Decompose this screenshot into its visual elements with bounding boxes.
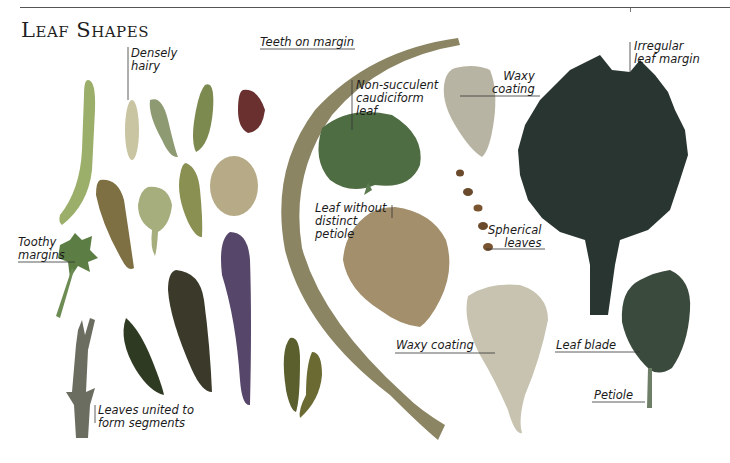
- waxy-coating-leaf-top: [444, 66, 496, 157]
- spherical-leaf: [478, 222, 488, 230]
- caudiciform-leaf: [318, 112, 420, 189]
- label-waxy-coating-bottom: Waxy coating: [396, 339, 474, 352]
- leaf-blade: [622, 270, 690, 373]
- petiole-stem: [647, 368, 652, 408]
- label-teeth-on-margin: Teeth on margin: [260, 36, 354, 49]
- label-toothy-margins: Toothy margins: [18, 236, 65, 262]
- label-irregular-leaf-margin: Irregular leaf margin: [634, 40, 700, 66]
- label-spherical-leaves: Spherical leaves: [488, 224, 541, 250]
- hairy-round-leaf: [210, 156, 258, 216]
- label-waxy-coating-top: Waxy coating: [492, 70, 535, 96]
- waxy-coating-leaf-bottom: [467, 284, 549, 433]
- label-densely-hairy: Densely hairy: [131, 47, 177, 73]
- long-curved-leaf: [59, 80, 95, 225]
- label-petiole: Petiole: [594, 389, 633, 402]
- densely-hairy-leaf: [125, 100, 139, 160]
- label-leaf-blade: Leaf blade: [556, 339, 616, 352]
- label-leaf-without-petiole: Leaf without distinct petiole: [315, 202, 386, 241]
- label-leaves-united-segments: Leaves united to form segments: [98, 404, 194, 430]
- united-segments-leaf: [66, 318, 95, 438]
- label-non-succulent-caudiciform: Non-succulent caudiciform leaf: [356, 79, 438, 118]
